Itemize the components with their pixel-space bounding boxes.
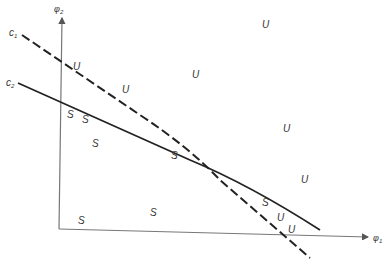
stable-point-label: S xyxy=(262,197,269,208)
region-labels: UUUUUUUUSSSSSSS xyxy=(67,19,309,235)
x-axis xyxy=(59,229,368,237)
stable-point-label: S xyxy=(78,215,85,226)
y-axis xyxy=(59,18,62,229)
stable-point-label: S xyxy=(92,138,99,149)
curve-c1-dashed xyxy=(22,35,310,258)
unstable-point-label: U xyxy=(301,174,309,185)
curve-c2-solid xyxy=(18,83,320,230)
stable-point-label: S xyxy=(67,109,74,120)
unstable-point-label: U xyxy=(288,224,296,235)
stable-point-label: S xyxy=(82,114,89,125)
unstable-point-label: U xyxy=(262,19,270,30)
stable-point-label: S xyxy=(171,150,178,161)
unstable-point-label: U xyxy=(277,212,285,223)
curve-c2-label: c2 xyxy=(6,77,15,89)
x-axis-label: φ1 xyxy=(373,233,382,244)
unstable-point-label: U xyxy=(283,123,291,134)
y-axis-label: φ2 xyxy=(54,4,64,15)
unstable-point-label: U xyxy=(73,61,81,72)
stability-diagram: φ2 φ1 c1 c2 UUUUUUUUSSSSSSS xyxy=(0,0,387,260)
stable-point-label: S xyxy=(150,207,157,218)
unstable-point-label: U xyxy=(192,69,200,80)
curve-c1-label: c1 xyxy=(9,27,17,39)
unstable-point-label: U xyxy=(122,84,130,95)
